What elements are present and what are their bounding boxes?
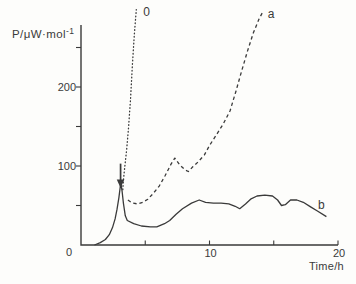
curve-label-a: a <box>268 7 275 21</box>
curve-b <box>95 183 327 245</box>
calorimetry-chart: 10020010200P/μW·mol-1Time/h0ab <box>0 0 356 284</box>
curve-a <box>128 12 263 204</box>
y-axis-title: P/μW·mol-1 <box>12 26 74 41</box>
y-tick-label: 100 <box>58 160 76 172</box>
x-axis-title: Time/h <box>309 260 344 272</box>
curve-label-b: b <box>318 198 325 212</box>
curve-label-0: 0 <box>143 5 150 19</box>
x-tick-label: 20 <box>333 247 345 259</box>
calorimetry-figure: 10020010200P/μW·mol-1Time/h0ab <box>0 0 356 284</box>
curve-0 <box>123 10 137 190</box>
x-tick-label: 10 <box>204 247 216 259</box>
axes-frame <box>81 25 338 245</box>
y-tick-label: 200 <box>58 81 76 93</box>
origin-tick-label: 0 <box>66 246 72 258</box>
